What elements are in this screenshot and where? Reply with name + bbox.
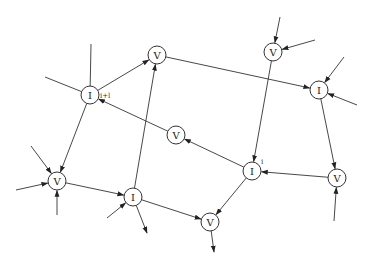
edge-V_br-to-I_center xyxy=(261,172,328,177)
stub-edge-I_bl-10 xyxy=(107,203,126,218)
edge-I_center-to-V_mid xyxy=(185,139,244,167)
node-label: I xyxy=(317,85,321,96)
node-I_right: I xyxy=(310,81,328,99)
node-label: V xyxy=(332,173,341,184)
stub-edges-layer xyxy=(16,17,357,252)
node-label: I xyxy=(131,192,135,203)
edge-I_center-to-V_bottom xyxy=(216,178,246,215)
edge-I_right-to-V_br xyxy=(321,99,335,169)
stub-edge-I_right-5 xyxy=(328,93,357,105)
stub-edge-V_left-8 xyxy=(16,183,48,190)
edge-V_top-to-I_right xyxy=(166,57,310,88)
stub-edge-V_br-6 xyxy=(334,187,336,221)
node-I_bl: I xyxy=(124,188,142,206)
node-V_left: V xyxy=(48,172,66,190)
node-label: V xyxy=(52,176,61,187)
edge-I_bl-to-V_bottom xyxy=(142,200,201,219)
node-label: I xyxy=(250,166,254,177)
node-label: V xyxy=(268,47,277,58)
stub-edge-I_bl-11 xyxy=(136,205,147,233)
edge-V_left-to-I_bl xyxy=(66,183,124,195)
node-I_top: Ii+l xyxy=(81,86,111,104)
stub-edge-V_left-7 xyxy=(31,146,51,173)
node-label: V xyxy=(171,130,180,141)
edges-layer xyxy=(60,57,335,219)
stub-edge-V_bottom-12 xyxy=(211,231,214,252)
edge-V_tr-to-I_center xyxy=(254,61,272,162)
stub-edge-I_right-4 xyxy=(325,57,344,82)
stub-edge-I_top-1 xyxy=(45,77,82,92)
node-label: V xyxy=(205,217,214,228)
node-V_bottom: V xyxy=(201,213,219,231)
edge-I_top-to-V_left xyxy=(60,103,86,172)
node-label: I xyxy=(88,90,92,101)
node-index-label: i xyxy=(261,158,264,166)
node-V_tr: V xyxy=(264,43,282,61)
edge-V_mid-to-I_top xyxy=(99,99,168,131)
graph-diagram: Ii+lVVIVIiVVIV xyxy=(0,0,370,274)
stub-edge-V_tr-2 xyxy=(275,17,280,43)
node-V_mid: V xyxy=(167,126,185,144)
node-label: V xyxy=(152,50,161,61)
node-V_br: V xyxy=(328,169,346,187)
node-index-label: i+l xyxy=(100,92,111,100)
nodes-layer: Ii+lVVIVIiVVIV xyxy=(48,43,346,231)
edge-I_bl-to-V_top xyxy=(134,64,155,188)
node-V_top: V xyxy=(148,46,166,64)
stub-edge-I_top-0 xyxy=(90,44,91,86)
stub-edge-V_tr-3 xyxy=(282,40,315,49)
edge-I_top-to-V_top xyxy=(98,60,149,91)
